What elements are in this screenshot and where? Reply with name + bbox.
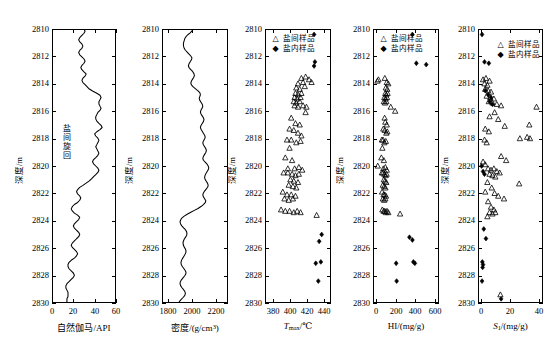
panel-5: 2810281228142816281828202822282428262828…	[0, 0, 552, 351]
scatter-point-interbed	[498, 292, 503, 297]
scatter-point-interbed	[485, 199, 490, 204]
scatter-point-interbed	[483, 126, 488, 131]
scatter-point-intrasalt	[483, 59, 487, 64]
triangle-open-icon: △	[496, 40, 505, 50]
scatter-point-interbed	[534, 104, 539, 109]
scatter-point-interbed	[498, 154, 503, 159]
legend-5: △盐间样品◆盐内样品	[496, 40, 540, 59]
legend-entry-interbed: △盐间样品	[496, 40, 540, 50]
scatter-point-interbed	[502, 123, 507, 128]
scatter-point-interbed	[492, 191, 497, 196]
scatter-point-interbed	[487, 114, 492, 119]
scatter-point-interbed	[503, 158, 508, 163]
legend-label-intrasalt: 盐内样品	[508, 50, 540, 60]
scatter-point-intrasalt	[487, 61, 491, 66]
legend-label-interbed: 盐间样品	[508, 40, 540, 50]
scatter-point-interbed	[501, 196, 506, 201]
scatter-point-interbed	[516, 181, 521, 186]
scatter-point-interbed	[517, 136, 522, 141]
scatter-point-intrasalt	[484, 236, 488, 241]
scatter-point-interbed	[483, 189, 488, 194]
scatter-point-intrasalt	[482, 227, 486, 232]
diamond-filled-icon: ◆	[496, 50, 505, 60]
scatter-point-interbed	[496, 117, 501, 122]
data-layer-5	[0, 0, 552, 351]
scatter-point-interbed	[492, 110, 497, 115]
well-log-geochemistry-figure: 2810281228142816281828202822282428262828…	[0, 0, 552, 351]
scatter-point-intrasalt	[480, 279, 484, 284]
scatter-point-interbed	[485, 180, 490, 185]
scatter-point-interbed	[527, 122, 532, 127]
scatter-point-intrasalt	[480, 32, 484, 37]
legend-entry-intrasalt: ◆盐内样品	[496, 50, 540, 60]
scatter-point-interbed	[489, 185, 494, 190]
